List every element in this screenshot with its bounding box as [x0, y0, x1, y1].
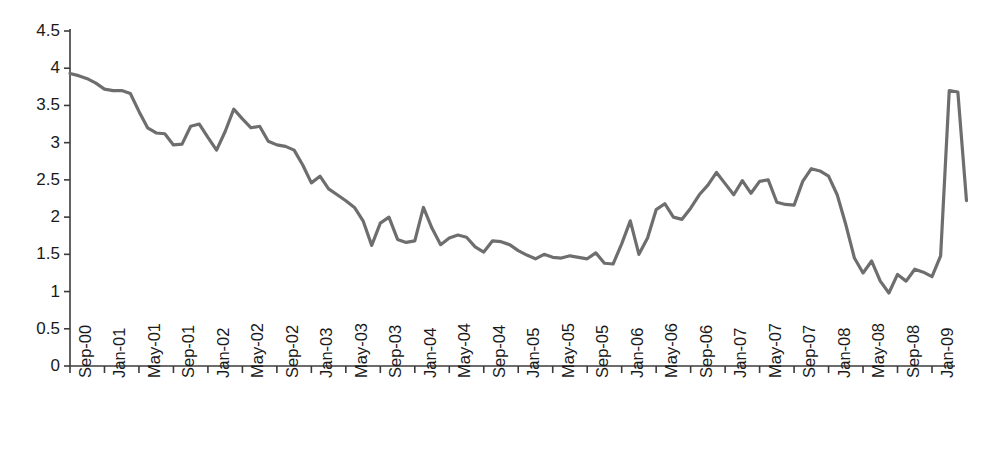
y-tick-label: 0: [16, 357, 60, 374]
x-tick-label: Jan-02: [214, 328, 233, 378]
x-tick-label: Jan-05: [524, 328, 543, 378]
y-tick-label: 1: [16, 283, 60, 300]
x-tick-label: Sep-01: [179, 325, 198, 378]
x-tick-label: Jan-03: [317, 328, 336, 378]
chart-canvas: [0, 0, 981, 466]
x-tick-label: Sep-03: [386, 325, 405, 378]
x-tick-label: Jan-07: [731, 328, 750, 378]
x-tick-label: Sep-06: [697, 325, 716, 378]
y-tick-label: 4: [16, 59, 60, 76]
x-tick-label: May-06: [662, 323, 681, 378]
x-tick-label: May-08: [869, 323, 888, 378]
x-tick-label: May-01: [145, 323, 164, 378]
x-tick-label: May-07: [766, 323, 785, 378]
x-tick-label: May-05: [559, 323, 578, 378]
x-tick-label: Jan-06: [628, 328, 647, 378]
y-tick-label: 4.5: [16, 22, 60, 39]
y-tick-label: 2.5: [16, 171, 60, 188]
x-tick-label: May-03: [352, 323, 371, 378]
data-series-line: [70, 73, 966, 293]
x-tick-label: Jan-09: [938, 328, 957, 378]
y-tick-label: 0.5: [16, 320, 60, 337]
line-chart: 00.511.522.533.544.5 Sep-00Jan-01May-01S…: [0, 0, 981, 466]
y-tick-label: 3: [16, 134, 60, 151]
x-tick-label: Sep-05: [593, 325, 612, 378]
x-tick-label: Sep-00: [76, 325, 95, 378]
x-tick-label: May-02: [248, 323, 267, 378]
x-tick-label: May-04: [455, 323, 474, 378]
y-tick-label: 3.5: [16, 96, 60, 113]
y-tick-label: 1.5: [16, 245, 60, 262]
x-tick-label: Sep-04: [490, 325, 509, 378]
x-tick-label: Jan-01: [110, 328, 129, 378]
x-tick-label: Sep-07: [800, 325, 819, 378]
x-tick-label: Sep-08: [904, 325, 923, 378]
y-tick-label: 2: [16, 208, 60, 225]
axes: [64, 29, 955, 373]
x-tick-label: Sep-02: [283, 325, 302, 378]
x-tick-label: Jan-08: [835, 328, 854, 378]
x-tick-label: Jan-04: [421, 328, 440, 378]
